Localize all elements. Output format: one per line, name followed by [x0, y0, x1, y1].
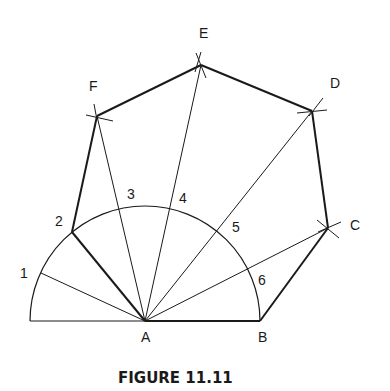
radial-line-C: [145, 228, 328, 321]
side-EF: [97, 65, 201, 116]
radial-line-1: [41, 273, 145, 321]
radial-line-D: [145, 111, 312, 321]
side-BC: [260, 228, 328, 321]
label-A: A: [141, 329, 151, 345]
arc-tick-marks: [86, 52, 341, 238]
label-F: F: [89, 78, 98, 94]
label-6: 6: [258, 272, 266, 288]
label-3: 3: [127, 186, 135, 202]
side-2A: [72, 232, 145, 321]
label-C: C: [350, 217, 360, 233]
heptagon-construction-diagram: E F D C A B 1 2 3 4 5 6 FIGURE 11.11: [0, 0, 390, 391]
label-1: 1: [20, 265, 28, 281]
figure-caption: FIGURE 11.11: [118, 369, 233, 387]
label-D: D: [330, 75, 340, 91]
label-5: 5: [232, 219, 240, 235]
side-F2: [72, 116, 97, 232]
tick-F-1: [86, 115, 113, 121]
heptagon-sides: [72, 65, 328, 321]
label-2: 2: [55, 213, 63, 229]
label-E: E: [199, 25, 208, 41]
side-DE: [201, 65, 312, 111]
label-B: B: [258, 329, 267, 345]
arc-point-labels: 1 2 3 4 5 6: [20, 186, 266, 288]
side-CD: [312, 111, 328, 228]
radial-line-E: [145, 65, 201, 321]
construction-semicircle: [30, 206, 260, 321]
label-4: 4: [179, 190, 187, 206]
vertex-labels: E F D C A B: [89, 25, 360, 345]
tick-D-2: [309, 98, 323, 116]
